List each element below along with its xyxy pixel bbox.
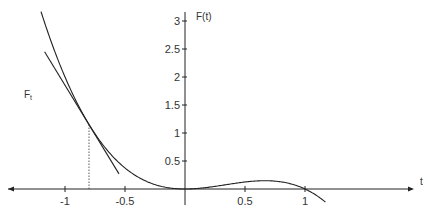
axes: -1-0.50.510.511.522.53 (8, 12, 414, 207)
plot-area (41, 12, 325, 202)
y-axis-label: F(t) (196, 11, 212, 22)
x-tick-label: 1 (302, 195, 308, 207)
x-tick-label: -1 (60, 195, 70, 207)
y-tick-label: 0.5 (165, 155, 180, 167)
curve-label: Ft (24, 89, 32, 101)
x-axis-label: t (420, 176, 423, 187)
x-tick-label: -0.5 (116, 195, 135, 207)
y-tick-label: 1.5 (165, 99, 180, 111)
x-axis-left-arrow-icon (8, 187, 14, 192)
tangent-line (45, 52, 119, 174)
x-axis-right-arrow-icon (408, 187, 414, 192)
x-tick-label: 0.5 (237, 195, 252, 207)
curve-F (41, 12, 325, 202)
y-tick-label: 3 (174, 15, 180, 27)
y-tick-label: 1 (174, 127, 180, 139)
y-tick-label: 2 (174, 71, 180, 83)
chart: -1-0.50.510.511.522.53 t F(t) Ft (0, 0, 437, 217)
y-tick-label: 2.5 (165, 43, 180, 55)
